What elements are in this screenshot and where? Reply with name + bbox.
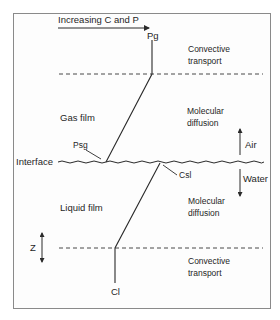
gas-film-label: Gas film: [60, 112, 95, 123]
interface-wave: [58, 161, 264, 163]
lower-molecular-label: Molecular: [188, 196, 225, 207]
lower-transport-label: transport: [188, 268, 222, 279]
liquid-profile-line: [115, 163, 160, 283]
cl-label: Cl: [111, 286, 120, 297]
upper-transport-label: transport: [188, 56, 222, 67]
psg-label: Psg: [73, 140, 88, 151]
psg-leader: [86, 150, 101, 159]
z-label: Z: [30, 242, 36, 253]
csl-label: Csl: [179, 170, 191, 181]
air-label: Air: [245, 139, 257, 150]
upper-diffusion-label: diffusion: [187, 118, 219, 129]
upper-molecular-label: Molecular: [187, 106, 224, 117]
water-label: Water: [243, 173, 268, 184]
liquid-film-label: Liquid film: [60, 202, 103, 213]
lower-diffusion-label: diffusion: [188, 208, 220, 219]
csl-leader: [163, 165, 177, 175]
upper-convective-label: Convective: [188, 44, 230, 55]
gas-profile-line: [106, 40, 152, 162]
lower-convective-label: Convective: [188, 256, 230, 267]
increasing-c-and-p-label: Increasing C and P: [58, 14, 139, 25]
interface-label: Interface: [16, 156, 53, 167]
pg-label: Pg: [147, 30, 159, 41]
